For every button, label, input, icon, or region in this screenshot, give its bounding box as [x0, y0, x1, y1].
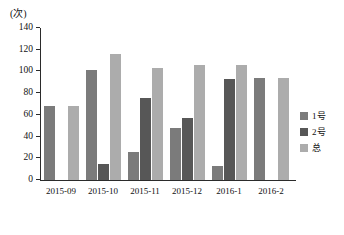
bar-group	[254, 28, 289, 180]
bar	[170, 128, 181, 180]
y-axis-tick-label: 20	[24, 151, 34, 163]
bar-chart: (次) 140120100806040200 2015-092015-10201…	[0, 0, 344, 235]
y-axis-tick-label: 0	[28, 173, 33, 185]
bar	[152, 68, 163, 180]
bar-group	[212, 28, 247, 180]
legend-swatch-icon	[300, 128, 308, 136]
x-axis-category-label: 2016-2	[250, 185, 292, 197]
bar	[236, 65, 247, 180]
bar	[98, 164, 109, 180]
y-axis-tick-label: 140	[19, 21, 33, 33]
bar	[194, 65, 205, 180]
bar	[224, 79, 235, 180]
x-axis-category-label: 2016-1	[208, 185, 250, 197]
bar-group	[86, 28, 121, 180]
bar-group	[44, 28, 79, 180]
bar	[44, 106, 55, 180]
chart-legend: 1号2号总	[300, 108, 344, 156]
y-axis-tick-label: 120	[19, 43, 33, 55]
bar-group	[128, 28, 163, 180]
legend-item-label: 总	[312, 143, 321, 153]
x-axis-line	[40, 180, 296, 181]
legend-swatch-icon	[300, 112, 308, 120]
y-axis-tick-label: 60	[24, 108, 34, 120]
bar	[182, 118, 193, 180]
bar	[212, 166, 223, 180]
x-axis-category-label: 2015-11	[124, 185, 166, 197]
y-axis-tick-label: 100	[19, 64, 33, 76]
bar-group	[170, 28, 205, 180]
x-axis-category-label: 2015-09	[40, 185, 82, 197]
y-axis-unit-label: (次)	[10, 8, 27, 20]
y-axis-tick-label: 40	[24, 130, 34, 142]
bar	[86, 70, 97, 180]
bar	[278, 78, 289, 180]
bar	[110, 54, 121, 180]
legend-item[interactable]: 2号	[300, 124, 344, 140]
legend-item-label: 2号	[312, 127, 326, 137]
legend-item[interactable]: 总	[300, 140, 344, 156]
x-axis-category-label: 2015-12	[166, 185, 208, 197]
bar	[68, 106, 79, 180]
x-axis-category-label: 2015-10	[82, 185, 124, 197]
bar	[140, 98, 151, 181]
legend-item[interactable]: 1号	[300, 108, 344, 124]
bar	[128, 152, 139, 180]
legend-swatch-icon	[300, 144, 308, 152]
bars-layer	[40, 28, 292, 180]
y-axis-tick-label: 80	[24, 86, 34, 98]
bar	[254, 78, 265, 180]
legend-item-label: 1号	[312, 111, 326, 121]
